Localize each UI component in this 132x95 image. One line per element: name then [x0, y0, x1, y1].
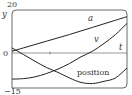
curve-a	[12, 17, 127, 52]
curve-v	[12, 23, 127, 79]
motion-graph: 20 y 0 −15 t a v position	[0, 0, 132, 95]
y-min-label: −15	[4, 87, 21, 95]
curves	[12, 17, 127, 84]
curve-position-label: position	[77, 68, 109, 77]
y-axis-label: y	[1, 9, 7, 19]
curve-a-label: a	[88, 13, 93, 23]
y-max-label: 20	[7, 0, 17, 9]
curve-v-label: v	[94, 34, 99, 44]
t-axis-label: t	[119, 42, 123, 52]
y-zero-label: 0	[3, 49, 8, 58]
